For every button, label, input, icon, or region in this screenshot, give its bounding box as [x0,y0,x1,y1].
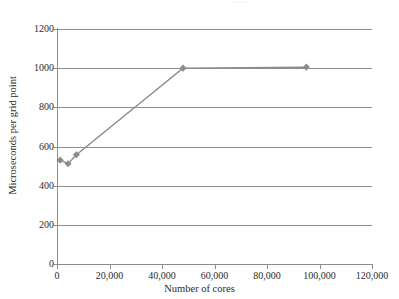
y-tick-mark [52,225,57,226]
y-axis-title-text: Microseconds per grid point [7,76,18,195]
y-tick-mark [52,147,57,148]
x-tick-mark [57,265,58,269]
x-tick-label: 80,000 [237,270,297,281]
series-markers [57,64,310,168]
gridline [57,147,372,148]
x-tick-label: 40,000 [132,270,192,281]
plot-area [57,29,372,264]
x-axis-title: Number of cores [0,283,399,294]
x-tick-label: 0 [27,270,87,281]
gridline [57,29,372,30]
y-tick-mark [52,107,57,108]
gridline [57,225,372,226]
y-tick-mark [52,29,57,30]
chart-figure: ....... Microseconds per grid point 0200… [0,0,399,299]
series-line [60,67,306,164]
clipped-caption-text: ....... [232,0,392,4]
x-tick-mark [372,265,373,269]
x-tick-label: 120,000 [342,270,399,281]
x-tick-mark [162,265,163,269]
y-tick-mark [52,68,57,69]
gridline [57,68,372,69]
y-tick-label: 800 [20,102,54,112]
gridline [57,186,372,187]
y-tick-label: 600 [20,142,54,152]
y-axis-tick-labels: 020040060080010001200 [18,0,54,299]
x-axis-tick-labels: 020,00040,00060,00080,000100,000120,000 [0,270,399,284]
x-tick-label: 20,000 [80,270,140,281]
y-tick-label: 200 [20,220,54,230]
y-tick-label: 1200 [20,24,54,34]
y-tick-label: 1000 [20,63,54,73]
x-tick-label: 60,000 [185,270,245,281]
x-tick-label: 100,000 [290,270,350,281]
x-tick-mark [110,265,111,269]
y-tick-label: 400 [20,181,54,191]
gridline [57,107,372,108]
x-tick-mark [215,265,216,269]
x-tick-mark [320,265,321,269]
y-tick-mark [52,186,57,187]
data-point-marker [57,157,64,164]
x-tick-mark [267,265,268,269]
y-tick-label: 0 [20,259,54,269]
